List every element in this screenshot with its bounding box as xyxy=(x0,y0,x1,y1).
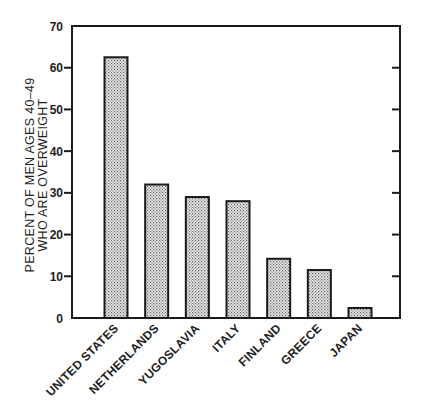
y-axis-title-line: WHO ARE OVERWEIGHT xyxy=(36,98,50,251)
bar-netherlands xyxy=(145,185,168,318)
x-category-label: GREECE xyxy=(278,321,325,368)
y-axis-title-line: PERCENT OF MEN AGES 40–49 xyxy=(23,78,37,273)
y-tick-label: 40 xyxy=(50,145,64,159)
x-axis-category-labels: UNITED STATESNETHERLANDSYUGOSLAVIAITALYF… xyxy=(43,321,365,399)
y-tick-label: 0 xyxy=(56,312,63,326)
bar-greece xyxy=(308,270,331,318)
bar-yugoslavia xyxy=(186,197,209,318)
y-tick-label: 20 xyxy=(50,228,64,242)
x-category-label: FINLAND xyxy=(236,321,284,369)
y-tick-label: 70 xyxy=(50,20,64,34)
y-tick-label: 60 xyxy=(50,61,64,75)
y-tick-label: 30 xyxy=(50,186,64,200)
y-tick-label: 10 xyxy=(50,270,64,284)
x-category-label: NETHERLANDS xyxy=(86,321,162,397)
y-axis-title: PERCENT OF MEN AGES 40–49WHO ARE OVERWEI… xyxy=(23,78,50,273)
bar-italy xyxy=(227,201,250,318)
y-tick-label: 50 xyxy=(50,103,64,117)
bar-united-states xyxy=(105,57,128,318)
bar-finland xyxy=(267,259,290,318)
bar-japan xyxy=(349,308,372,318)
bars xyxy=(105,57,372,318)
x-category-label: UNITED STATES xyxy=(43,321,121,399)
y-axis-ticks: 010203040506070 xyxy=(50,20,400,326)
x-category-label: ITALY xyxy=(209,321,243,355)
x-category-label: JAPAN xyxy=(326,321,365,360)
bar-chart: PERCENT OF MEN AGES 40–49WHO ARE OVERWEI… xyxy=(0,0,424,420)
